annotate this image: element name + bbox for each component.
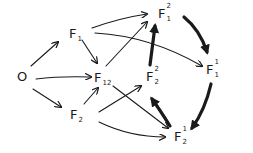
node-F1-sup2: F21 xyxy=(158,7,173,20)
node-label: F xyxy=(158,6,165,21)
node-F2: F2 xyxy=(70,108,83,124)
edge-F1one-F2one xyxy=(192,84,211,128)
edge-F1-F1sq xyxy=(92,14,147,28)
edge-F2sq-F1sq xyxy=(150,26,155,65)
edge-F1sq-F1one xyxy=(184,17,207,52)
node-label: F xyxy=(146,69,153,84)
edge-O-F2 xyxy=(33,89,61,107)
node-O: O xyxy=(17,70,27,83)
node-subscript: 2 xyxy=(78,116,82,124)
edge-F2-F12 xyxy=(84,88,98,104)
node-F1: F1 xyxy=(69,27,82,43)
node-label: O xyxy=(17,69,27,84)
node-superscript: 2 xyxy=(154,66,158,73)
node-subscript: 2 xyxy=(154,79,158,86)
edge-F2-F2sq xyxy=(99,86,141,112)
node-subscript: 1 xyxy=(214,72,218,79)
node-superscript: 1 xyxy=(214,59,218,66)
edge-F2one-F2sq xyxy=(152,99,170,126)
node-label: F xyxy=(94,70,101,85)
edge-F2-F2one xyxy=(99,122,165,137)
node-label: F xyxy=(70,107,77,122)
edge-O-F12 xyxy=(36,77,91,79)
node-subscript: 1 xyxy=(166,16,170,23)
node-F2-sup1: F12 xyxy=(174,130,189,143)
node-label: F xyxy=(69,26,76,41)
edge-O-F1 xyxy=(31,42,58,66)
node-superscript: 2 xyxy=(166,3,170,10)
edge-F1-F12 xyxy=(82,40,97,63)
node-superscript: 1 xyxy=(182,126,186,133)
node-label: F xyxy=(206,62,213,77)
node-F1-sup1: F11 xyxy=(206,63,221,76)
node-label: F xyxy=(174,129,181,144)
edge-F12-F1sq xyxy=(106,22,147,66)
node-F2-sup2: F22 xyxy=(146,70,161,83)
node-subscript: 1 xyxy=(77,35,81,43)
node-subscript: 2 xyxy=(182,139,186,146)
edge-F12-F2one xyxy=(113,86,168,128)
node-subscript: 12 xyxy=(102,79,111,87)
node-F12: F12 xyxy=(94,71,111,87)
